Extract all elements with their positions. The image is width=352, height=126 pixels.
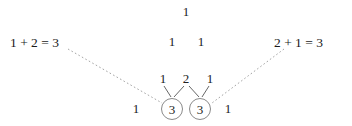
solid-connectors <box>164 86 209 97</box>
triangle-value: 1 <box>216 102 240 115</box>
dashed-leader-line <box>68 49 162 103</box>
triangle-value: 1 <box>189 35 213 48</box>
triangle-value: 1 <box>160 35 184 48</box>
circled-value: 3 <box>189 98 211 120</box>
triangle-value: 1 <box>198 72 222 85</box>
triangle-value: 1 <box>174 5 198 18</box>
solid-connector <box>202 86 209 97</box>
triangle-value: 1 <box>151 72 175 85</box>
solid-connector <box>164 86 171 97</box>
annotation-right-sum: 2 + 1 = 3 <box>274 36 323 50</box>
pascal-triangle-diagram: 1111211331 1 + 2 = 3 2 + 1 = 3 <box>0 0 352 126</box>
annotation-right-sum-text: 2 + 1 = 3 <box>274 35 323 50</box>
annotation-left-sum-text: 1 + 2 = 3 <box>10 35 59 50</box>
triangle-value: 1 <box>124 102 148 115</box>
circled-value: 3 <box>161 98 183 120</box>
annotation-left-sum: 1 + 2 = 3 <box>10 36 59 50</box>
dashed-leader-line <box>212 49 284 103</box>
triangle-value: 2 <box>174 72 198 85</box>
solid-connector <box>174 86 184 97</box>
solid-connector <box>189 86 199 97</box>
